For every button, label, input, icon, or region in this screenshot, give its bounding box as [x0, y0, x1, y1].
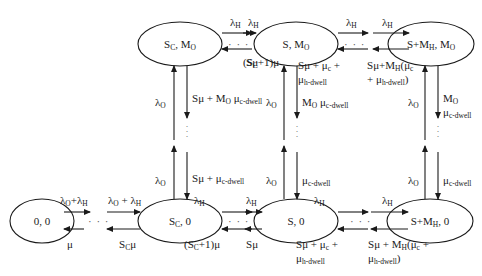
node-label-0-0: 0, 0: [16, 215, 68, 227]
node-label-s-mo: S, MO: [264, 38, 328, 54]
rate-label-col3-up-top: λO: [408, 96, 419, 112]
ellipsis-bot-3: · · ·: [350, 215, 372, 227]
rate-label-col3-down-bot: μc-dwell: [443, 174, 471, 190]
rate-label-bot-back-1: SCμ: [119, 238, 136, 254]
node-label-s-mh-mo: S+MH, MO: [392, 38, 470, 54]
ellipsis-top-2: · · ·: [344, 38, 366, 50]
rate-label-top-fwd-2: λH: [248, 16, 259, 32]
rate-label-col3-up-bot: λO: [408, 174, 419, 190]
vertical-ellipsis-col1: ···: [184, 124, 190, 139]
rate-label-bot-back-4b: μh-dwell: [296, 252, 325, 268]
rate-label-top-back-4b: + μh-dwell): [367, 73, 408, 89]
rate-label-col2-down-bot: μc-dwell: [302, 174, 330, 190]
node-label-s-mh-0: S+MH, 0: [392, 215, 468, 231]
rate-label-bot-back-5b: μh-dwell): [368, 252, 401, 268]
rate-label-col1-up-bot: λO: [155, 174, 166, 190]
node-label-s-0: S, 0: [264, 215, 328, 227]
rate-label-bot-back-2: (SC+1)μ: [184, 238, 220, 254]
ellipsis-top-1: · · ·: [228, 38, 250, 50]
node-label-sc-mo: SC, MO: [148, 38, 212, 54]
rate-label-bot-fwd-2: λH: [194, 194, 205, 210]
rate-label-col1-down-bot: Sμ + μc-dwell: [192, 172, 244, 188]
rate-label-bot-fwd-5: λH: [382, 194, 393, 210]
rate-label-top-fwd-1: λH: [230, 16, 241, 32]
rate-label-bot-fwd-4: λH: [314, 194, 325, 210]
ellipsis-bot-2: · · ·: [228, 215, 250, 227]
rate-label-col2-up-top: λO: [266, 96, 277, 112]
rate-label-bot-fwd-1: λO + λH: [108, 194, 141, 210]
vertical-ellipsis-col3: ···: [435, 124, 441, 139]
rate-label-col2-down-top: MO μc-dwell: [302, 96, 348, 112]
vertical-ellipsis-col2: ···: [294, 124, 300, 139]
node-label-sc-0: SC, 0: [148, 215, 212, 231]
rate-label-bot-back-0: μ: [67, 238, 73, 250]
rate-label-bot-fwd-0: λO+λH: [60, 194, 88, 210]
rate-label-top-back-3b: μh-dwell: [298, 73, 327, 89]
rate-label-top-fwd-3: λH: [346, 16, 357, 32]
rate-label-top-back-2: Sμ: [246, 56, 258, 68]
ellipsis-bot-1: · · ·: [88, 215, 110, 227]
rate-label-bot-fwd-3: λH: [246, 194, 257, 210]
rate-label-col1-down-top: Sμ + MO μc-dwell: [192, 92, 262, 108]
rate-label-col2-up-bot: λO: [266, 174, 277, 190]
rate-label-bot-back-3: Sμ: [246, 238, 258, 250]
rate-label-top-fwd-4: λH: [382, 16, 393, 32]
rate-label-col1-up-top: λO: [155, 96, 166, 112]
rate-label-col3-down-top-b: μc-dwell: [443, 106, 471, 122]
